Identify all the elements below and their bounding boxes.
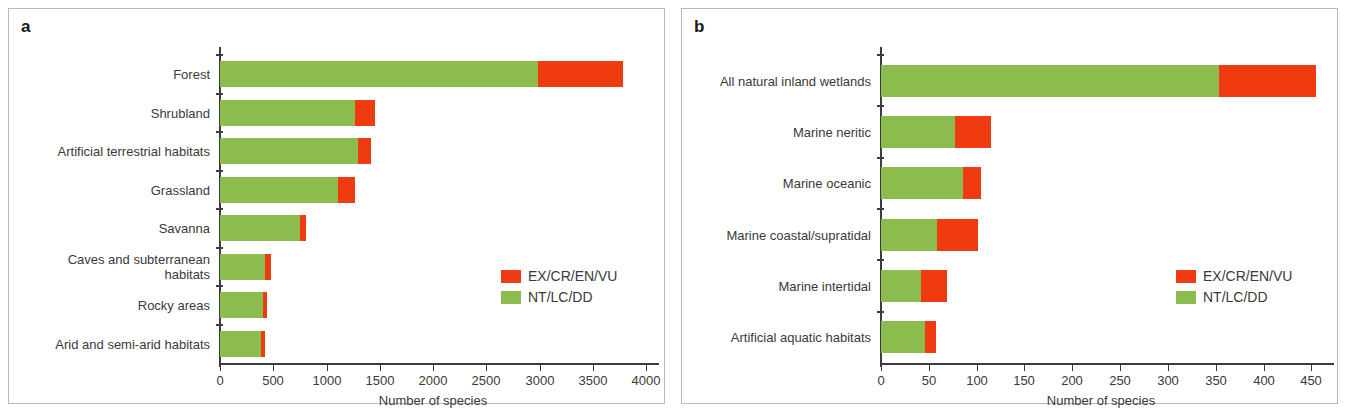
category-label: Artificial terrestrial habitats	[58, 144, 210, 159]
panel-b-legend: EX/CR/EN/VUNT/LC/DD	[1176, 267, 1292, 309]
panel-b-plot-area: 050100150200250300350400450Number of spe…	[682, 9, 1337, 403]
x-axis-tick-label: 50	[922, 373, 936, 388]
x-axis-tick	[1120, 365, 1121, 371]
bar-segment	[358, 138, 371, 164]
x-axis-tick	[540, 365, 541, 371]
x-axis-tick-label: 0	[877, 373, 884, 388]
category-label: Marine coastal/supratidal	[726, 227, 871, 242]
panel-a: a 05001000150020002500300035004000Number…	[8, 8, 665, 404]
x-axis-tick	[1168, 365, 1169, 371]
y-axis-tick	[216, 54, 223, 56]
y-axis-tick	[216, 170, 223, 172]
y-axis-tick	[216, 285, 223, 287]
y-axis-tick	[877, 157, 884, 159]
x-axis-tick-label: 2500	[472, 373, 501, 388]
x-axis-tick	[220, 365, 221, 371]
panel-a-plot-area: 05001000150020002500300035004000Number o…	[9, 9, 664, 403]
bar-segment	[881, 219, 937, 251]
bar-segment	[355, 100, 375, 126]
bar-segment	[881, 270, 921, 302]
x-axis-title: Number of species	[1047, 393, 1155, 408]
legend-item[interactable]: NT/LC/DD	[1176, 288, 1292, 306]
x-axis-tick	[486, 365, 487, 371]
x-axis-tick	[593, 365, 594, 371]
bar-segment	[538, 61, 623, 87]
bar-segment	[220, 292, 263, 318]
legend-item[interactable]: EX/CR/EN/VU	[1176, 267, 1292, 285]
bar-segment	[220, 177, 338, 203]
legend-label: EX/CR/EN/VU	[528, 268, 617, 284]
x-axis-tick-label: 3000	[526, 373, 555, 388]
x-axis-tick	[327, 365, 328, 371]
x-axis-tick-label: 300	[1157, 373, 1179, 388]
x-axis-tick-label: 3500	[579, 373, 608, 388]
y-axis-tick	[216, 131, 223, 133]
category-label: Rocky areas	[138, 298, 210, 313]
bar-segment	[881, 116, 955, 148]
x-axis-tick-label: 500	[262, 373, 284, 388]
category-label: Grassland	[151, 182, 210, 197]
legend-label: NT/LC/DD	[1203, 289, 1268, 305]
panel-b: b 050100150200250300350400450Number of s…	[681, 8, 1338, 404]
y-axis-tick	[877, 259, 884, 261]
bar-segment	[937, 219, 978, 251]
x-axis-tick	[433, 365, 434, 371]
legend-swatch-icon	[1176, 291, 1196, 304]
y-axis-tick	[877, 54, 884, 56]
x-axis-tick-label: 4000	[632, 373, 661, 388]
x-axis-tick	[929, 365, 930, 371]
y-axis-tick	[877, 208, 884, 210]
y-axis-tick	[877, 105, 884, 107]
bar-segment	[921, 270, 947, 302]
legend-item[interactable]: EX/CR/EN/VU	[501, 267, 617, 285]
x-axis-tick	[273, 365, 274, 371]
x-axis-tick	[1024, 365, 1025, 371]
bar-segment	[963, 167, 981, 199]
bar-segment	[263, 292, 267, 318]
x-axis-tick	[1216, 365, 1217, 371]
x-axis-tick-label: 100	[966, 373, 988, 388]
x-axis-tick-label: 200	[1061, 373, 1083, 388]
category-label: Shrubland	[151, 105, 210, 120]
x-axis-tick-label: 250	[1109, 373, 1131, 388]
x-axis-tick	[380, 365, 381, 371]
y-axis-tick	[216, 324, 223, 326]
x-axis-tick	[1264, 365, 1265, 371]
bar-segment	[220, 61, 538, 87]
legend-item[interactable]: NT/LC/DD	[501, 288, 617, 306]
x-axis-tick-label: 1000	[313, 373, 342, 388]
legend-label: EX/CR/EN/VU	[1203, 268, 1292, 284]
category-label: Marine intertidal	[779, 278, 872, 293]
bar-segment	[265, 254, 271, 280]
y-axis-tick	[216, 247, 223, 249]
category-label: Caves and subterranean habitats	[68, 252, 210, 282]
x-axis-tick	[881, 365, 882, 371]
x-axis-tick	[646, 365, 647, 371]
bar-segment	[881, 321, 925, 353]
x-axis-tick	[977, 365, 978, 371]
bar-segment	[300, 215, 306, 241]
y-axis-line	[219, 47, 221, 367]
y-axis-tick	[216, 208, 223, 210]
bar-segment	[220, 100, 355, 126]
bar-segment	[955, 116, 991, 148]
x-axis-line	[880, 363, 1334, 365]
bar-segment	[220, 138, 358, 164]
category-label: Marine oceanic	[783, 176, 871, 191]
x-axis-tick-label: 350	[1205, 373, 1227, 388]
bar-segment	[220, 215, 300, 241]
bar-segment	[1219, 65, 1316, 97]
legend-swatch-icon	[1176, 270, 1196, 283]
category-label: Artificial aquatic habitats	[731, 330, 871, 345]
bar-segment	[881, 65, 1219, 97]
category-label: All natural inland wetlands	[720, 73, 871, 88]
bar-segment	[338, 177, 355, 203]
legend-label: NT/LC/DD	[528, 289, 593, 305]
bar-segment	[261, 331, 265, 357]
bar-segment	[220, 254, 265, 280]
x-axis-tick	[1072, 365, 1073, 371]
x-axis-tick-label: 2000	[419, 373, 448, 388]
category-label: Arid and semi-arid habitats	[55, 336, 210, 351]
x-axis-tick-label: 400	[1253, 373, 1275, 388]
y-axis-tick	[877, 311, 884, 313]
